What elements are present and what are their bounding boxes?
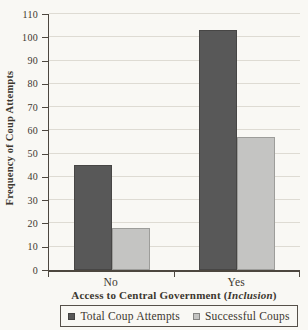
x-axis-title-text: Access to Central Government ( <box>71 289 227 301</box>
x-category-label-yes: Yes <box>227 275 245 289</box>
bar-yes-successful <box>237 137 275 270</box>
gridline-90 <box>49 60 300 61</box>
coup-attempts-bar-chart: Frequency of Coup Attempts 0102030405060… <box>0 0 308 330</box>
y-tick-label-20: 20 <box>6 218 38 229</box>
bar-yes-total <box>199 30 237 270</box>
x-tick-1 <box>174 272 175 277</box>
x-axis-title-suffix: ) <box>273 289 277 301</box>
y-tick-label-40: 40 <box>6 171 38 182</box>
y-tick-label-80: 80 <box>6 78 38 89</box>
y-tick-label-60: 60 <box>6 125 38 136</box>
y-tick-label-30: 30 <box>6 195 38 206</box>
gridline-100 <box>49 36 300 37</box>
legend-swatch-icon <box>68 313 75 320</box>
x-axis-title: Access to Central Government (Inclusion) <box>40 289 308 301</box>
x-axis-title-italic: Inclusion <box>228 289 273 301</box>
x-tick-2 <box>299 272 300 277</box>
y-tick-label-110: 110 <box>6 9 38 20</box>
y-tick-label-50: 50 <box>6 148 38 159</box>
legend-item-successful-coups: Successful Coups <box>193 310 290 322</box>
x-axis-category-labels: NoYes <box>48 275 299 290</box>
y-tick-label-10: 10 <box>6 241 38 252</box>
legend-label: Successful Coups <box>205 310 290 322</box>
y-tick-label-100: 100 <box>6 32 38 43</box>
bar-no-successful <box>112 228 150 270</box>
y-tick-label-0: 0 <box>6 265 38 276</box>
gridline-70 <box>49 106 300 107</box>
legend-item-total-coup-attempts: Total Coup Attempts <box>68 310 179 322</box>
legend: Total Coup AttemptsSuccessful Coups <box>60 305 298 327</box>
y-tick-label-70: 70 <box>6 102 38 113</box>
gridline-110 <box>49 13 300 14</box>
legend-label: Total Coup Attempts <box>80 310 179 322</box>
x-category-label-no: No <box>103 275 118 289</box>
y-tick-label-90: 90 <box>6 55 38 66</box>
gridline-80 <box>49 83 300 84</box>
plot-area <box>48 14 300 272</box>
x-tick-0 <box>48 272 49 277</box>
gridline-60 <box>49 129 300 130</box>
legend-swatch-icon <box>193 313 200 320</box>
bar-no-total <box>74 165 112 270</box>
y-axis: 0102030405060708090100110 <box>0 14 48 270</box>
